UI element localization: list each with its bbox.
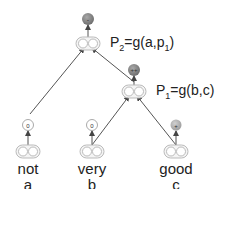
var-b: b bbox=[62, 176, 122, 189]
var-c: c bbox=[146, 176, 206, 189]
svg-text:++: ++ bbox=[130, 67, 138, 73]
var-a: a bbox=[0, 176, 58, 189]
word-very: very bbox=[62, 160, 122, 177]
svg-text:+: + bbox=[174, 123, 178, 129]
word-good: good bbox=[146, 160, 206, 177]
word-not: not bbox=[0, 160, 58, 177]
p2-label: P2=g(a,p1) bbox=[110, 34, 174, 53]
p1-label: P1=g(b,c) bbox=[156, 82, 214, 101]
